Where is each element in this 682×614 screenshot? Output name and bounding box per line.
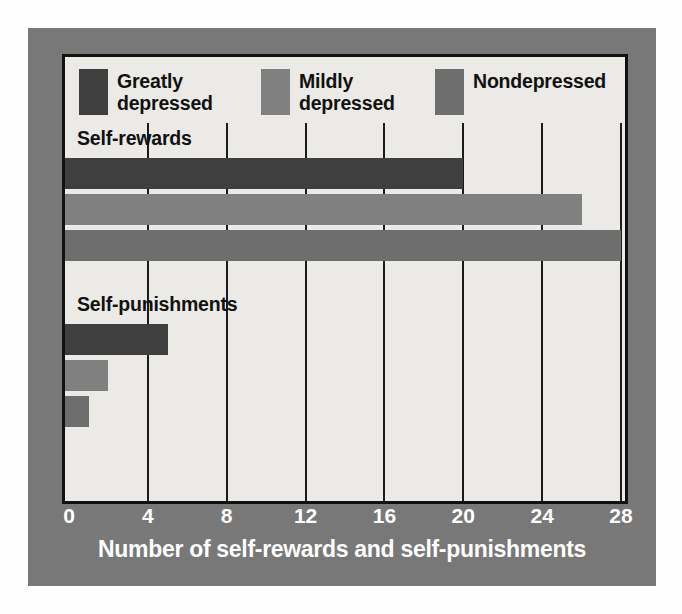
legend-item-greatly-depressed: Greatly depressed: [79, 69, 213, 115]
x-tick-label: 20: [452, 504, 475, 528]
legend-item-nondepressed: Nondepressed: [435, 69, 606, 115]
chart-legend: Greatly depressed Mildly depressed Nonde…: [65, 57, 625, 123]
bar: [65, 360, 108, 391]
bar: [65, 194, 582, 225]
group-label-self-punishments: Self-punishments: [77, 293, 237, 316]
plot-panel: Greatly depressed Mildly depressed Nonde…: [62, 54, 628, 504]
legend-swatch-greatly-depressed: [79, 69, 108, 115]
legend-label-mildly-depressed: Mildly depressed: [299, 69, 395, 114]
legend-swatch-mildly-depressed: [261, 69, 290, 115]
x-tick-label: 16: [373, 504, 396, 528]
x-tick-label: 24: [530, 504, 553, 528]
bar: [65, 324, 168, 355]
chart-figure: Greatly depressed Mildly depressed Nonde…: [0, 0, 682, 614]
x-tick-label: 4: [142, 504, 154, 528]
legend-item-mildly-depressed: Mildly depressed: [261, 69, 395, 115]
legend-swatch-nondepressed: [435, 69, 464, 115]
x-axis-label: Number of self-rewards and self-punishme…: [28, 536, 656, 563]
gridline: [620, 123, 622, 501]
chart-frame: Greatly depressed Mildly depressed Nonde…: [28, 28, 656, 586]
gridline: [541, 123, 543, 501]
plot-area: Self-rewards Self-punishments: [65, 123, 625, 501]
bar: [65, 396, 89, 427]
x-tick-label: 12: [294, 504, 317, 528]
legend-label-nondepressed: Nondepressed: [473, 69, 606, 92]
x-tick-label: 28: [609, 504, 632, 528]
bar: [65, 230, 621, 261]
bar: [65, 158, 463, 189]
x-tick-label: 0: [63, 504, 75, 528]
x-axis-ticks: 0481216202428: [62, 504, 628, 534]
legend-label-greatly-depressed: Greatly depressed: [117, 69, 213, 114]
group-label-self-rewards: Self-rewards: [77, 127, 192, 150]
x-tick-label: 8: [221, 504, 233, 528]
